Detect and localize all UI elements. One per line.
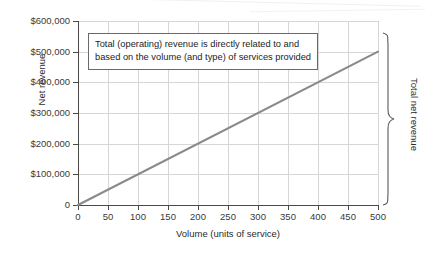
y-axis-tick-label: $600,000 — [8, 15, 70, 26]
y-axis-tick-label: $100,000 — [8, 168, 70, 179]
y-axis-title: Net revenue — [36, 35, 47, 125]
chart-figure: 0$100,000$200,000$300,000$400,000$500,00… — [0, 0, 429, 254]
brace-label: Total net revenue — [409, 60, 420, 170]
y-axis-tick-label: 0 — [8, 199, 70, 210]
x-axis-tick-label: 500 — [358, 211, 398, 222]
y-axis-tick-label: $200,000 — [8, 138, 70, 149]
annotation-line-1: Total (operating) revenue is directly re… — [95, 38, 311, 51]
annotation-line-2: based on the volume (and type) of servic… — [95, 51, 311, 64]
scan-artifact — [120, 0, 420, 23]
total-net-revenue-brace — [381, 32, 395, 206]
annotation-callout: Total (operating) revenue is directly re… — [88, 33, 318, 70]
x-axis-title: Volume (units of service) — [128, 228, 328, 239]
